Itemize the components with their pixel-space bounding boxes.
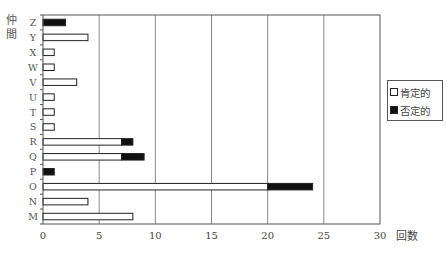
category-label: R — [29, 136, 37, 147]
x-tick-label: 30 — [374, 230, 387, 241]
x-tick-label: 20 — [261, 230, 274, 241]
bar-segment — [268, 183, 313, 190]
black-square-icon — [390, 106, 398, 114]
bar-chart: 051015202530 ZYXWVUTSRQPONM — [0, 0, 446, 254]
category-label: Y — [29, 32, 37, 43]
category-label: O — [29, 181, 37, 192]
bar-segment — [43, 198, 88, 205]
white-square-icon — [390, 88, 398, 96]
bar-segment — [43, 94, 54, 101]
bar-segment — [43, 213, 133, 220]
category-label: V — [29, 77, 37, 88]
bar-segment — [43, 64, 54, 71]
bars — [43, 19, 313, 220]
legend-item-positive: 肯定的 — [390, 83, 440, 101]
bar-segment — [43, 139, 122, 146]
x-tick-label: 15 — [205, 230, 218, 241]
bar-segment — [43, 19, 65, 26]
legend-label: 否定的 — [400, 103, 430, 118]
bar-segment — [122, 139, 133, 146]
legend-item-negative: 否定的 — [390, 101, 440, 119]
category-label: Z — [30, 17, 37, 28]
legend-label: 肯定的 — [400, 85, 430, 100]
bar-segment — [43, 124, 54, 131]
category-label: U — [29, 92, 37, 103]
x-tick-label: 5 — [96, 230, 102, 241]
x-tick-label: 25 — [317, 230, 330, 241]
category-label: P — [30, 166, 37, 177]
bar-segment — [43, 169, 54, 176]
x-tick-label: 10 — [149, 230, 162, 241]
x-axis-title: 回数 — [396, 227, 418, 243]
bar-segment — [43, 79, 77, 86]
bar-segment — [122, 154, 144, 161]
legend: 肯定的 否定的 — [387, 80, 443, 121]
category-label: S — [30, 121, 37, 132]
bar-segment — [43, 34, 88, 41]
y-axis-category-labels: ZYXWVUTSRQPONM — [28, 17, 38, 222]
x-tick-label: 0 — [40, 230, 46, 241]
category-label: M — [28, 211, 38, 222]
grid-lines — [99, 15, 324, 224]
bar-segment — [43, 49, 54, 56]
category-label: T — [30, 107, 37, 118]
category-label: N — [29, 196, 37, 207]
category-label: X — [30, 47, 37, 58]
bar-segment — [43, 183, 268, 190]
category-label: W — [28, 62, 38, 73]
category-label: Q — [29, 151, 37, 162]
x-axis-tick-labels: 051015202530 — [40, 230, 387, 241]
bar-segment — [43, 109, 54, 116]
y-axis-title: 仲間 — [6, 14, 20, 42]
bar-segment — [43, 154, 122, 161]
